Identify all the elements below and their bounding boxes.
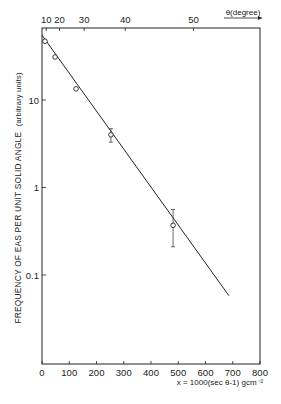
chart: 0100200300400500600700800 1010.1 1020304…	[0, 0, 281, 404]
x-tick-label: 0	[39, 367, 44, 378]
fit-line-segment	[42, 35, 229, 295]
x-tick-label: 300	[116, 367, 132, 378]
x-axis-label: x = 1000(sec θ-1) gcm⁻²	[177, 378, 264, 387]
y-axis-label-main: FREQUENCY OF EAS PER UNIT SOLID ANGLE	[13, 132, 23, 324]
data-point	[43, 39, 48, 44]
plot-border	[42, 28, 260, 364]
y-tick-label: 10	[28, 95, 39, 106]
y-tick-label: 0.1	[26, 270, 39, 281]
data-points	[43, 39, 176, 247]
x-tick-label: 100	[61, 367, 77, 378]
fit-line	[42, 35, 229, 295]
y-axis: 1010.1	[26, 95, 46, 281]
data-point	[171, 223, 176, 228]
y-axis-label-units: (arbitrary units)	[14, 72, 23, 126]
top-tick-label: 50	[188, 14, 199, 25]
top-axis-label: θ(degree)	[224, 8, 262, 20]
top-tick-label: 40	[120, 14, 131, 25]
top-tick-label: 10	[41, 14, 52, 25]
plot-frame	[42, 28, 260, 364]
x-tick-label: 400	[143, 367, 159, 378]
data-point	[109, 133, 114, 138]
x-tick-label: 700	[225, 367, 241, 378]
data-point	[74, 87, 79, 92]
x-tick-label: 200	[89, 367, 105, 378]
theta-label: θ(degree)	[226, 8, 261, 17]
y-axis-label: FREQUENCY OF EAS PER UNIT SOLID ANGLE (a…	[13, 72, 23, 324]
x-tick-label: 500	[170, 367, 186, 378]
y-tick-label: 1	[34, 182, 39, 193]
x-tick-label: 800	[252, 367, 268, 378]
x-tick-label: 600	[198, 367, 214, 378]
top-tick-label: 20	[54, 14, 65, 25]
data-point	[53, 55, 58, 60]
top-tick-label: 30	[79, 14, 90, 25]
y-axis-label-group: FREQUENCY OF EAS PER UNIT SOLID ANGLE (a…	[13, 72, 23, 324]
